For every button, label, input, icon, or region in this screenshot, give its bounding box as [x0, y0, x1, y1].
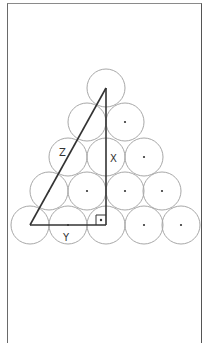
label-z: Z — [59, 147, 66, 158]
right-angle-dot — [100, 219, 102, 221]
label-y: Y — [62, 232, 70, 243]
label-x: X — [110, 153, 117, 164]
hypotenuse-z — [30, 88, 106, 225]
right-triangle — [30, 88, 106, 225]
